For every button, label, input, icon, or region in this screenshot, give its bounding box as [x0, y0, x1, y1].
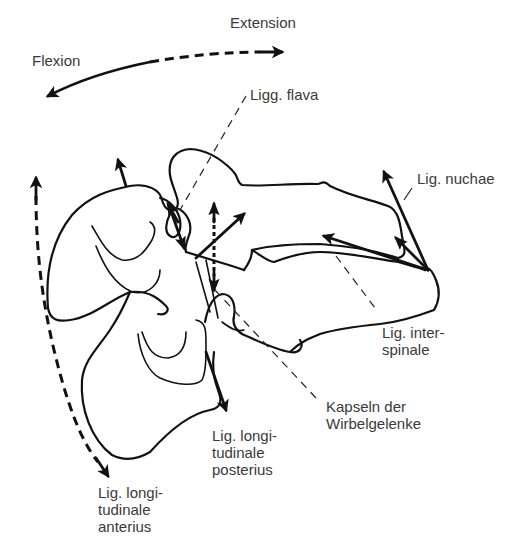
label-lig-nuchae: Lig. nuchae: [417, 170, 495, 187]
label-kapseln-wirbelgelenke: Kapseln der Wirbelgelenke: [326, 398, 421, 432]
label-line: tudinale: [98, 501, 163, 518]
label-line: spinale: [382, 341, 445, 358]
label-line: Lig. inter-: [382, 324, 445, 341]
flexion-extension-arrow: [48, 52, 282, 96]
label-line: Lig. longi-: [98, 484, 163, 501]
label-line: Lig. longi-: [212, 427, 277, 444]
label-line: tudinale: [212, 444, 277, 461]
label-lig-interspinale: Lig. inter- spinale: [382, 324, 445, 358]
label-line: posterius: [212, 461, 277, 478]
label-flexion: Flexion: [32, 52, 80, 69]
upper-vertebra-outline: [47, 149, 404, 308]
label-extension: Extension: [230, 14, 296, 31]
label-line: anterius: [98, 518, 163, 535]
label-line: Kapseln der: [326, 398, 421, 415]
label-lig-longitudinale-posterius: Lig. longi- tudinale posterius: [212, 427, 277, 478]
label-lig-longitudinale-anterius: Lig. longi- tudinale anterius: [98, 484, 163, 535]
label-line: Wirbelgelenke: [326, 415, 421, 432]
label-ligg-flava: Ligg. flava: [250, 86, 318, 103]
